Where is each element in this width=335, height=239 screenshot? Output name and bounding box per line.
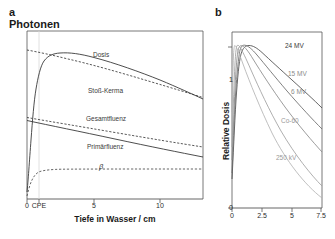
curve-label-6mv: 6 MV [291, 89, 306, 96]
panel-a-xtick-5: 5 [89, 202, 99, 209]
panel-a-xtick-10: 10 [154, 202, 166, 209]
curve-beta [27, 169, 203, 196]
curve-primaerfluenz [27, 121, 203, 158]
panel-b-curves [232, 45, 322, 198]
curve-label-24mv: 24 MV [285, 43, 304, 50]
panel-b-xtick-2_5: 2.5 [254, 212, 270, 219]
panel-b-xtick-7_5: 7.5 [313, 212, 329, 219]
curve-label-co60: Co-60 [281, 118, 299, 125]
curve-label-stoss-kerma: Stoß-Kerma [88, 88, 123, 95]
figure-root: a Photonen 0 CPE 5 [0, 0, 335, 239]
panel-b-xtick-5: 5 [287, 212, 297, 219]
panel-b-ytick-0: 0 [227, 204, 235, 211]
curve-label-primaerfluenz: Primärfluenz [87, 144, 123, 151]
panel-b-xtick-0: 0 [227, 212, 237, 219]
curve-250kv [232, 45, 322, 198]
curve-label-beta: β [99, 163, 103, 171]
curve-label-dosis: Dosis [93, 52, 109, 59]
panel-a-xaxis-label: Tiefe in Wasser / cm [55, 215, 175, 224]
curve-label-gesamtfluenz: Gesamtfluenz [86, 116, 126, 123]
curve-label-250kv: 250 kV [276, 155, 296, 162]
panel-a-curves [27, 50, 203, 196]
panel-a-xtick-cpe: CPE [27, 202, 51, 209]
panel-b-ytick-1: 1 [227, 76, 235, 83]
curve-label-15mv: 15 MV [288, 71, 307, 78]
